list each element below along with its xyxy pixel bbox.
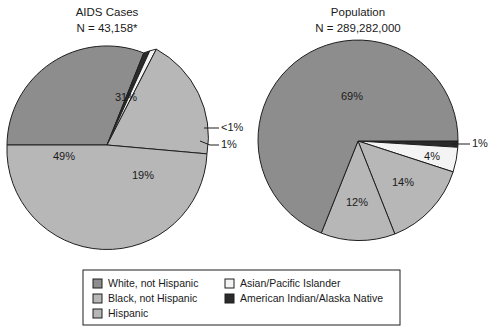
aids-label-black-not-hispanic: 49% bbox=[53, 150, 75, 162]
population-label-american-indian: 1% bbox=[472, 137, 488, 149]
legend-label-black-not-hispanic: Black, not Hispanic bbox=[108, 292, 197, 304]
legend-swatch-white-not-hispanic[interactable] bbox=[93, 279, 102, 288]
aids-cases-chart: AIDS Cases N = 43,158* 31% 49% 19% <1% 1… bbox=[7, 6, 244, 250]
aids-label-asian-pacific-islander: 1% bbox=[221, 138, 237, 150]
legend-label-white-not-hispanic: White, not Hispanic bbox=[108, 277, 198, 289]
legend-label-asian-pacific-islander: Asian/Pacific Islander bbox=[240, 277, 341, 289]
population-chart-subtitle: N = 289,282,000 bbox=[315, 22, 400, 34]
two-pie-chart-figure: AIDS Cases N = 43,158* 31% 49% 19% <1% 1… bbox=[0, 0, 497, 334]
population-chart: Population N = 289,282,000 69% 4% 14% 12… bbox=[258, 6, 488, 241]
aids-chart-subtitle: N = 43,158* bbox=[76, 22, 138, 34]
population-label-hispanic: 14% bbox=[392, 176, 414, 188]
legend-swatch-asian-pacific-islander[interactable] bbox=[225, 279, 234, 288]
population-label-asian-pacific-islander: 4% bbox=[424, 150, 440, 162]
population-label-white-not-hispanic: 69% bbox=[341, 90, 363, 102]
aids-slice-black-not-hispanic[interactable] bbox=[7, 145, 207, 250]
legend: White, not Hispanic Black, not Hispanic … bbox=[83, 270, 400, 325]
aids-label-american-indian: <1% bbox=[221, 121, 244, 133]
legend-swatch-hispanic[interactable] bbox=[93, 309, 102, 318]
population-chart-title: Population bbox=[331, 6, 385, 18]
legend-label-american-indian: American Indian/Alaska Native bbox=[240, 292, 383, 304]
legend-swatch-american-indian[interactable] bbox=[225, 294, 234, 303]
aids-chart-title: AIDS Cases bbox=[76, 6, 139, 18]
legend-label-hispanic: Hispanic bbox=[108, 307, 148, 319]
legend-swatch-black-not-hispanic[interactable] bbox=[93, 294, 102, 303]
population-label-black-not-hispanic: 12% bbox=[346, 196, 368, 208]
figure-container: AIDS Cases N = 43,158* 31% 49% 19% <1% 1… bbox=[0, 0, 497, 334]
aids-label-hispanic: 19% bbox=[132, 169, 154, 181]
aids-label-white-not-hispanic: 31% bbox=[115, 91, 137, 103]
